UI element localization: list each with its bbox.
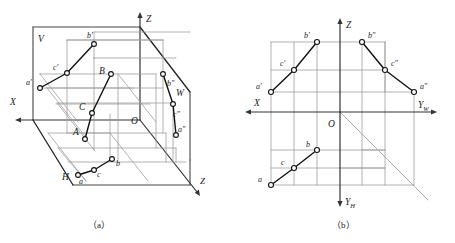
marker-a-dprime-b bbox=[412, 90, 417, 95]
marker-a-prime-b bbox=[269, 90, 274, 95]
label-A: A bbox=[72, 127, 79, 137]
label-a-h-b: a bbox=[258, 175, 262, 184]
marker-b-prime bbox=[92, 42, 97, 47]
label-c-dprime: c″ bbox=[173, 110, 181, 119]
plane-w-label: W bbox=[176, 88, 185, 98]
label-c-h: c bbox=[97, 170, 101, 179]
marker-B bbox=[109, 72, 114, 77]
label-c-prime-b: c′ bbox=[280, 59, 286, 68]
marker-c-prime bbox=[65, 71, 70, 76]
axis-y-line bbox=[140, 120, 197, 192]
axis-yw-sub: W bbox=[423, 105, 429, 112]
marker-c-h bbox=[92, 168, 97, 173]
label-B: B bbox=[99, 66, 105, 76]
plane-h-label: H bbox=[61, 172, 70, 182]
axis-x-arrow bbox=[15, 117, 21, 122]
marker-c-prime-b bbox=[292, 68, 297, 73]
label-b-h-b: b bbox=[306, 140, 310, 149]
marker-c-dprime bbox=[171, 102, 176, 107]
label-c-prime: c′ bbox=[53, 63, 59, 72]
axis-z-label: Z bbox=[146, 14, 152, 24]
label-b-dprime: b″ bbox=[167, 79, 175, 88]
panel-b-orthographic: X Z YW YH O a′ b′ c′ b″ c″ a″ a b c bbox=[228, 0, 455, 243]
origin-label-b: O bbox=[328, 119, 335, 129]
origin-label-a: O bbox=[131, 116, 138, 126]
marker-b-dprime-b bbox=[360, 40, 365, 45]
label-a-prime: a′ bbox=[26, 78, 32, 87]
marker-b-h-b bbox=[315, 148, 320, 153]
caption-b: （b） bbox=[332, 218, 355, 231]
label-b-prime-b: b′ bbox=[304, 31, 310, 40]
marker-C bbox=[90, 111, 95, 116]
panel-a-axonometric: V H W X Z Z O A B C a′ b′ c′ a b c a″ b″… bbox=[0, 0, 228, 243]
axis-yh-arrow-b bbox=[337, 201, 342, 207]
axis-y-label: Z bbox=[200, 176, 206, 186]
w-projection-polyline-b bbox=[362, 42, 414, 92]
axis-yh-sub: H bbox=[349, 202, 355, 209]
axis-yw-arrow-b bbox=[431, 109, 437, 114]
label-a-h: a bbox=[79, 177, 83, 186]
marker-a-prime bbox=[38, 86, 43, 91]
label-a-dprime: a″ bbox=[178, 125, 186, 134]
marker-a-h-b bbox=[269, 183, 274, 188]
axis-z-arrow bbox=[137, 12, 142, 18]
axis-x-label: X bbox=[9, 97, 17, 107]
axis-yh-label-b: YH bbox=[345, 197, 355, 209]
label-b-h: b bbox=[116, 159, 120, 168]
marker-c-dprime-b bbox=[383, 68, 388, 73]
space-polyline-ACB bbox=[85, 74, 111, 139]
label-c-dprime-b: c″ bbox=[391, 59, 399, 68]
projection-grid-b bbox=[271, 42, 428, 200]
marker-b-dprime bbox=[161, 72, 166, 77]
label-a-prime-b: a′ bbox=[256, 82, 262, 91]
caption-a: （a） bbox=[88, 218, 110, 231]
projection-grid-a bbox=[40, 32, 190, 181]
axis-yw-label-b: YW bbox=[418, 100, 429, 112]
axis-x-arrow-b bbox=[245, 109, 251, 114]
marker-b-h bbox=[110, 157, 115, 162]
label-a-dprime-b: a″ bbox=[420, 82, 428, 91]
marker-c-h-b bbox=[292, 166, 297, 171]
label-c-h-b: c bbox=[281, 158, 285, 167]
label-C: C bbox=[79, 102, 86, 112]
label-b-dprime-b: b″ bbox=[368, 31, 376, 40]
axis-x-label-b: X bbox=[253, 98, 261, 108]
axis-z-arrow-b bbox=[337, 18, 342, 24]
axis-z-label-b: Z bbox=[346, 20, 352, 30]
marker-b-prime-b bbox=[315, 40, 320, 45]
plane-v-label: V bbox=[38, 34, 45, 44]
label-b-prime: b′ bbox=[87, 31, 93, 40]
marker-A bbox=[83, 137, 88, 142]
point-markers-a bbox=[38, 42, 179, 178]
plane-w-edge-upper bbox=[140, 27, 190, 92]
figure-root: V H W X Z Z O A B C a′ b′ c′ a b c a″ b″… bbox=[0, 0, 455, 243]
